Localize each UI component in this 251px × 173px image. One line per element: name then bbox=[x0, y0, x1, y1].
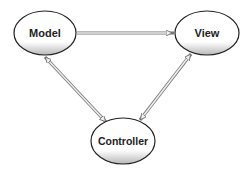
model-label: Model bbox=[29, 27, 61, 39]
controller-label: Controller bbox=[98, 135, 148, 147]
edge-view-controller bbox=[140, 54, 191, 120]
node-controller: Controller bbox=[91, 118, 155, 164]
mvc-diagram: Model View Controller bbox=[0, 0, 251, 173]
edge-model-controller bbox=[45, 57, 106, 122]
node-model: Model bbox=[14, 11, 76, 55]
node-view: View bbox=[175, 11, 239, 55]
view-label: View bbox=[195, 27, 220, 39]
